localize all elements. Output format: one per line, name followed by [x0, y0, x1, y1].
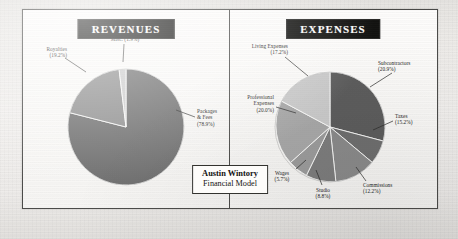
label-studio: Studio (8.8%)	[308, 187, 338, 200]
label-subcontractors: Subcontractors (20.9%)	[378, 60, 428, 73]
label-commissions: Commissions (12.2%)	[363, 182, 409, 195]
label-commissions-line2: (12.2%)	[363, 188, 409, 194]
label-misc: Misc. (1.9%)	[96, 36, 154, 42]
label-professional-expenses-line3: (20.0%)	[230, 107, 274, 113]
label-wages: Wages (5.7%)	[267, 170, 297, 183]
label-packages-fees-line3: (78.9%)	[197, 121, 231, 127]
leader-line-misc	[123, 44, 124, 62]
label-misc-line1: Misc. (1.9%)	[96, 36, 154, 42]
label-taxes: Taxes (15.2%)	[395, 113, 429, 126]
leader-line-living-expenses	[285, 57, 308, 76]
label-professional-expenses: Professional Expenses (20.0%)	[230, 94, 274, 113]
scanned-page: REVENUES Royalties	[0, 0, 458, 239]
label-royalties-line2: (19.2%)	[27, 52, 67, 58]
label-taxes-line2: (15.2%)	[395, 119, 429, 125]
caption-subtitle: Financial Model	[202, 179, 258, 189]
caption-title: Austin Wintory	[202, 169, 258, 179]
label-packages-fees: Packages & Fees (78.9%)	[197, 108, 231, 127]
label-royalties: Royalties (19.2%)	[27, 46, 67, 59]
label-studio-line2: (8.8%)	[308, 193, 338, 199]
figure-frame: REVENUES Royalties	[22, 9, 438, 209]
label-living-expenses: Living Expenses (17.2%)	[230, 43, 288, 56]
label-living-expenses-line2: (17.2%)	[230, 49, 288, 55]
leader-line-royalties	[65, 58, 86, 72]
figure-caption-box: Austin Wintory Financial Model	[192, 165, 268, 194]
label-wages-line2: (5.7%)	[267, 176, 297, 182]
label-subcontractors-line2: (20.9%)	[378, 66, 428, 72]
leader-line-subcontractors	[370, 73, 392, 87]
